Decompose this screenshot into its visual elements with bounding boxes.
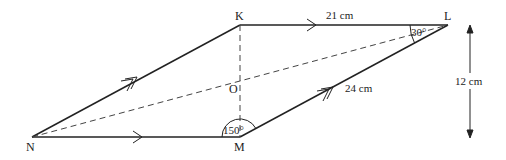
side-LM xyxy=(240,25,448,137)
arrowhead-up-icon xyxy=(467,25,473,33)
vertex-label-L: L xyxy=(444,9,451,23)
angle-arcs xyxy=(222,25,415,137)
dashed-lines xyxy=(32,25,448,137)
arrowhead-down-icon xyxy=(467,130,473,138)
side-NK xyxy=(32,25,240,137)
vertex-label-N: N xyxy=(26,140,35,154)
measure-ML: 24 cm xyxy=(345,82,373,94)
measure-height: 12 cm xyxy=(455,75,483,87)
parallelogram-diagram: K L M N O 21 cm 24 cm 12 cm 30° 150° xyxy=(0,0,506,160)
vertex-label-M: M xyxy=(234,140,245,154)
vertex-label-K: K xyxy=(235,9,244,23)
measure-KL: 21 cm xyxy=(326,9,354,21)
intersection-label-O: O xyxy=(229,82,238,96)
angle-label-L: 30° xyxy=(411,26,426,38)
angle-label-M: 150° xyxy=(223,124,244,136)
